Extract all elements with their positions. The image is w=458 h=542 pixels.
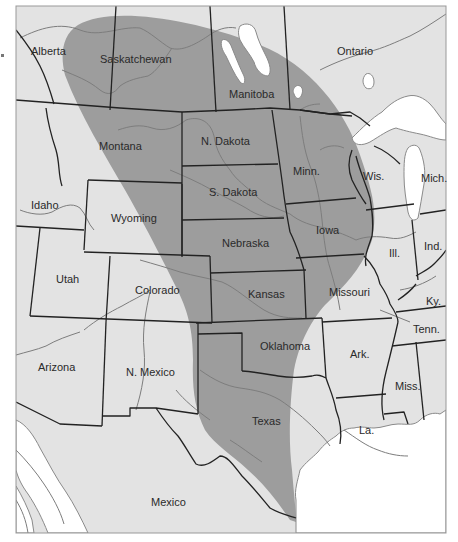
lake-of-the-woods	[293, 85, 302, 98]
label-manitoba: Manitoba	[229, 88, 275, 100]
label-ind: Ind.	[424, 240, 442, 252]
label-wis: Wis.	[363, 170, 384, 182]
label-texas: Texas	[252, 415, 281, 427]
range-map: Alberta Saskatchewan Manitoba Ontario Mo…	[0, 0, 458, 542]
label-ontario: Ontario	[337, 45, 373, 57]
label-colorado: Colorado	[135, 284, 180, 296]
label-arizona: Arizona	[38, 361, 76, 373]
label-ark: Ark.	[350, 348, 370, 360]
label-kansas: Kansas	[248, 288, 285, 300]
label-nebraska: Nebraska	[222, 237, 270, 249]
label-utah: Utah	[56, 273, 79, 285]
label-ky: Ky.	[426, 295, 441, 307]
label-n-dakota: N. Dakota	[201, 135, 251, 147]
label-n-mexico: N. Mexico	[126, 366, 175, 378]
label-oklahoma: Oklahoma	[260, 340, 311, 352]
label-s-dakota: S. Dakota	[209, 186, 258, 198]
label-idaho: Idaho	[31, 199, 59, 211]
label-mexico: Mexico	[151, 496, 186, 508]
label-miss: Miss.	[395, 380, 421, 392]
label-alberta: Alberta	[31, 45, 67, 57]
label-minn: Minn.	[293, 165, 320, 177]
label-ill: Ill.	[389, 247, 400, 259]
label-tenn: Tenn.	[413, 323, 440, 335]
label-iowa: Iowa	[316, 224, 340, 236]
label-saskatchewan: Saskatchewan	[100, 53, 172, 65]
label-montana: Montana	[99, 140, 143, 152]
label-wyoming: Wyoming	[111, 212, 157, 224]
label-missouri: Missouri	[329, 286, 370, 298]
label-la: La.	[359, 424, 374, 436]
label-mich: Mich.	[421, 172, 447, 184]
lake-nipigon	[363, 73, 374, 88]
